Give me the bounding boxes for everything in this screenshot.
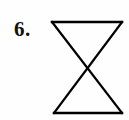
bowtie-figure xyxy=(0,0,129,120)
question-figure-panel: 6. xyxy=(0,0,129,120)
